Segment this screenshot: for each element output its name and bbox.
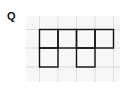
grid-diagram [0,0,127,93]
